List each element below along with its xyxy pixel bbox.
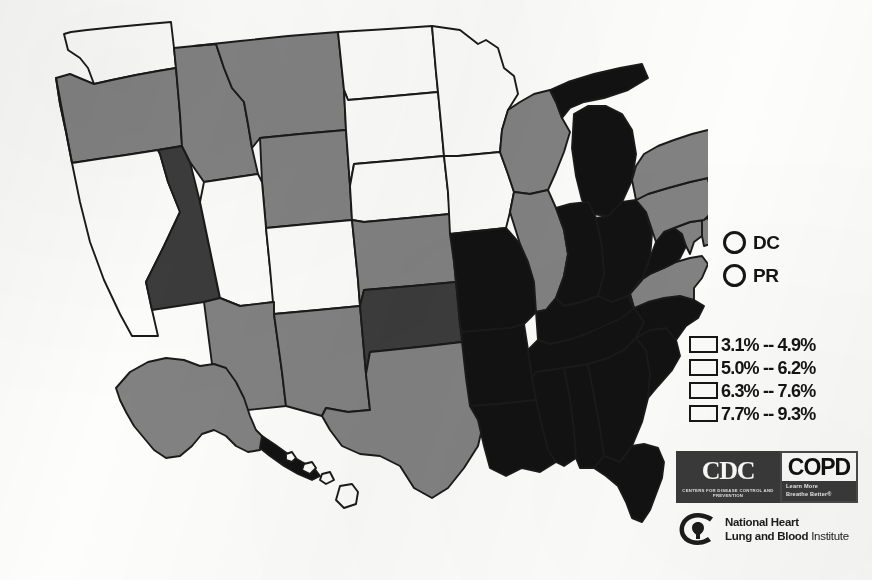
marker-row-pr[interactable]: PR xyxy=(723,259,780,292)
heart-lungs-icon xyxy=(678,511,718,547)
circle-icon-dc xyxy=(723,231,746,254)
us-states-map[interactable] xyxy=(8,6,708,526)
legend-row-3[interactable]: 6.3% -- 7.6% xyxy=(689,379,815,402)
nhlbi-line-2-bold: Lung and Blood xyxy=(725,530,811,542)
legend-label-2: 5.0% -- 6.2% xyxy=(721,359,815,377)
circle-icon-pr xyxy=(723,264,746,287)
marker-row-dc[interactable]: DC xyxy=(723,226,780,259)
state-nm[interactable] xyxy=(274,306,370,416)
legend-label-3: 6.3% -- 7.6% xyxy=(721,382,815,400)
nhlbi-line-2-light: Institute xyxy=(811,530,849,542)
legend-row-4[interactable]: 7.7% -- 9.3% xyxy=(689,402,815,425)
legend-row-1[interactable]: 3.1% -- 4.9% xyxy=(689,333,815,356)
state-ar[interactable] xyxy=(462,324,536,406)
nhlbi-line-2: Lung and Blood Institute xyxy=(725,529,849,543)
copd-logo[interactable]: COPD Learn More Breathe Better® xyxy=(780,451,858,503)
state-ne[interactable] xyxy=(350,156,450,222)
cdc-wordmark: CDC xyxy=(702,458,755,484)
legend-swatch-4 xyxy=(689,405,718,422)
map-legend: 3.1% -- 4.9% 5.0% -- 6.2% 6.3% -- 7.6% 7… xyxy=(689,333,815,425)
legend-swatch-3 xyxy=(689,382,718,399)
legend-row-2[interactable]: 5.0% -- 6.2% xyxy=(689,356,815,379)
marker-label-pr: PR xyxy=(753,266,779,285)
nhlbi-text: National Heart Lung and Blood Institute xyxy=(725,515,849,543)
agency-logos: CDC CENTERS FOR DISEASE CONTROL AND PREV… xyxy=(676,451,866,503)
legend-swatch-2 xyxy=(689,359,718,376)
legend-swatch-1 xyxy=(689,336,718,353)
copd-tagline-line1: Learn More xyxy=(786,483,856,490)
state-co[interactable] xyxy=(266,220,360,314)
copd-tagline-line2: Breathe Better® xyxy=(786,491,856,498)
marker-label-dc: DC xyxy=(753,233,780,252)
state-shapes xyxy=(56,22,708,522)
state-nd[interactable] xyxy=(338,26,438,100)
state-de[interactable] xyxy=(702,218,708,246)
cdc-tagline: CENTERS FOR DISEASE CONTROL AND PREVENTI… xyxy=(681,488,775,499)
copd-tagline: Learn More Breathe Better® xyxy=(782,481,856,501)
legend-label-4: 7.7% -- 9.3% xyxy=(721,405,815,423)
state-wy[interactable] xyxy=(260,130,352,228)
cdc-logo[interactable]: CDC CENTERS FOR DISEASE CONTROL AND PREV… xyxy=(676,451,780,503)
nhlbi-line-1: National Heart xyxy=(725,515,849,529)
nhlbi-logo[interactable]: National Heart Lung and Blood Institute xyxy=(678,511,866,547)
territory-markers: DC PR xyxy=(723,226,780,292)
copd-prevalence-map-figure: DC PR 3.1% -- 4.9% 5.0% -- 6.2% 6.3% -- … xyxy=(0,0,872,580)
logo-strip: CDC CENTERS FOR DISEASE CONTROL AND PREV… xyxy=(676,451,866,547)
copd-wordmark: COPD xyxy=(782,453,856,481)
state-fl[interactable] xyxy=(594,444,664,522)
legend-label-1: 3.1% -- 4.9% xyxy=(721,336,815,354)
